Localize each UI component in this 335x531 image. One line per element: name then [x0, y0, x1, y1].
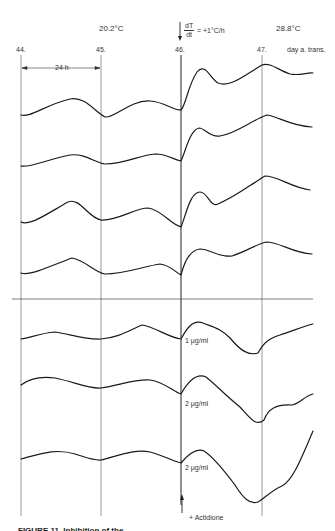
- trace-control-2: [21, 115, 312, 166]
- day-gridlines: [21, 55, 262, 516]
- trace-actidione-2ug-b: [21, 431, 313, 503]
- trace-control-3: [21, 176, 310, 227]
- rhythm-chart: [0, 0, 335, 531]
- temperature-shift-arrow-icon: [178, 22, 182, 41]
- interval-bracket: [22, 67, 100, 70]
- trace-control-1: [21, 64, 313, 117]
- trace-control-4: [21, 242, 312, 275]
- trace-actidione-1ug: [21, 322, 313, 354]
- trace-actidione-2ug-a: [21, 376, 313, 423]
